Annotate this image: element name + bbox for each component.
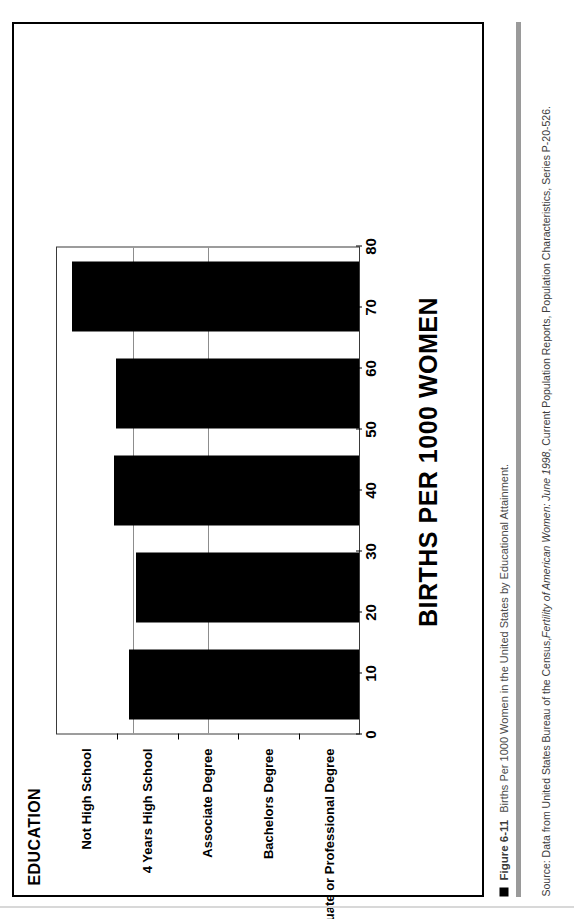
rotated-chart: EDUCATION Not High School4 Years High Sc…: [14, 24, 486, 899]
value-tick-label: 50: [362, 421, 379, 438]
figure-caption-column: Figure 6-11 Births Per 1000 Women in the…: [486, 22, 520, 897]
category-tick-mark: [299, 733, 300, 739]
category-tick-label: Associate Degree: [178, 739, 239, 899]
value-tick-mark: [356, 489, 362, 490]
category-axis-title: EDUCATION: [26, 787, 44, 885]
value-tick-mark: [356, 672, 362, 673]
value-tick-mark: [356, 550, 362, 551]
value-tick-labels: 01020304050607080: [362, 246, 388, 734]
category-tick-label: Graduate or Professional Degree: [299, 739, 360, 899]
bar: [116, 358, 359, 428]
value-tick-label: 40: [362, 482, 379, 499]
value-tick-label: 0: [362, 730, 379, 738]
chart-canvas: EDUCATION Not High School4 Years High Sc…: [14, 24, 486, 899]
bar-cell: [57, 441, 359, 538]
right-margin-rule: [516, 22, 521, 897]
category-tick-label: 4 Years High School: [117, 739, 178, 899]
category-tick-mark: [178, 733, 179, 739]
category-tick-labels: Not High School4 Years High SchoolAssoci…: [56, 739, 360, 899]
bar: [136, 552, 359, 622]
value-tick-mark: [356, 245, 362, 246]
bar-series: [57, 247, 359, 733]
value-tick-mark: [356, 367, 362, 368]
value-tick-mark: [356, 733, 362, 734]
source-suffix: , Current Population Reports, Population…: [540, 106, 552, 452]
value-tick-mark: [356, 306, 362, 307]
value-tick-label: 10: [362, 665, 379, 682]
plot-area: [56, 246, 360, 734]
figure-caption-text: Births Per 1000 Women in the United Stat…: [498, 464, 510, 813]
value-axis-title: BIRTHS PER 1000 WOMEN: [414, 24, 443, 899]
source-prefix: Source: Data from United States Bureau o…: [540, 638, 552, 897]
category-tick-mark: [238, 733, 239, 739]
value-tick-label: 20: [362, 604, 379, 621]
bottom-page-rule: [0, 906, 574, 908]
caption-marker-square: [499, 888, 508, 897]
bar-cell: [57, 247, 359, 344]
value-tick-label: 30: [362, 543, 379, 560]
value-tick-label: 60: [362, 360, 379, 377]
value-tick-label: 70: [362, 299, 379, 316]
chart-rotation-wrapper: EDUCATION Not High School4 Years High Sc…: [14, 24, 486, 899]
source-title: Fertility of American Women: June 1998: [540, 452, 552, 638]
figure-source: Source: Data from United States Bureau o…: [529, 22, 563, 897]
bar: [72, 261, 359, 331]
bar: [114, 455, 359, 525]
bar-cell: [57, 539, 359, 636]
category-tick-mark: [117, 733, 118, 739]
bar-cell: [57, 636, 359, 733]
category-tick-label: Not High School: [56, 739, 117, 899]
figure-number: Figure 6-11: [498, 820, 510, 881]
figure-source-column: Source: Data from United States Bureau o…: [528, 22, 562, 897]
value-tick-label: 80: [362, 238, 379, 255]
category-tick-label: Bachelors Degree: [238, 739, 299, 899]
value-tick-mark: [356, 611, 362, 612]
bar: [129, 649, 359, 719]
bar-cell: [57, 344, 359, 441]
figure-frame: EDUCATION Not High School4 Years High Sc…: [12, 22, 484, 897]
value-tick-mark: [356, 428, 362, 429]
